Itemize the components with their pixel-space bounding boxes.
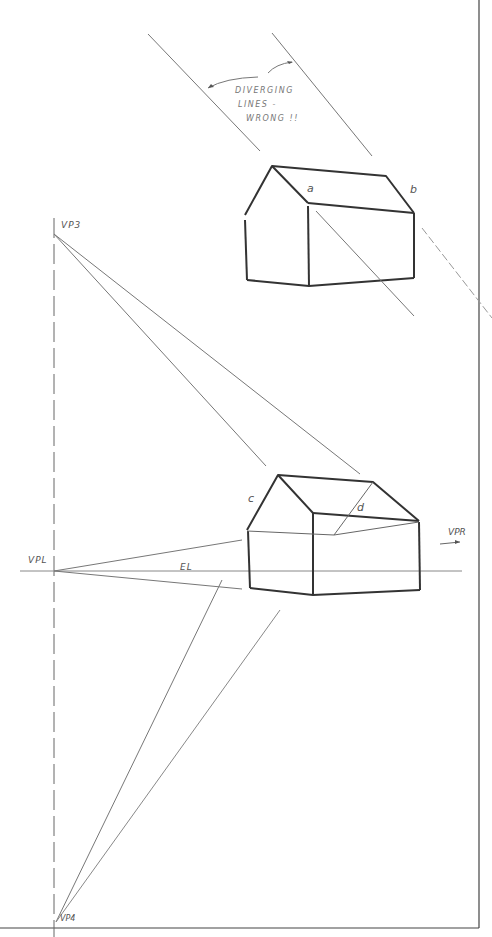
arrowhead-icon <box>455 540 460 544</box>
vpl-line-top <box>54 540 242 571</box>
annotation-line-1: DIVERGING <box>235 84 294 97</box>
vp4-line-2 <box>56 610 280 922</box>
annotation-arrow <box>268 62 292 73</box>
parallel-line-a <box>316 211 414 316</box>
vp3-line-2 <box>54 234 360 474</box>
parallel-line-b <box>422 228 492 318</box>
label-vpr: VPR <box>448 527 466 537</box>
vpl-line-bottom <box>54 571 242 589</box>
label-d: d <box>357 501 364 514</box>
label-a: a <box>307 182 314 195</box>
label-el: EL <box>180 562 193 572</box>
vp3-line-1 <box>54 234 266 466</box>
vp4-line-1 <box>56 580 222 922</box>
label-vp3: VP3 <box>61 220 81 230</box>
annotation-line-3: WRONG !! <box>246 112 299 125</box>
label-vp4: VP4 <box>60 914 75 923</box>
annotation-line-2: LINES - <box>238 98 277 111</box>
roof-construction-line <box>247 522 419 535</box>
line-d <box>334 482 373 535</box>
label-b: b <box>410 183 417 196</box>
perspective-drawing <box>0 0 492 937</box>
arrowhead-icon <box>208 84 214 88</box>
label-c: c <box>248 492 254 505</box>
label-vpl: VPL <box>28 555 48 565</box>
